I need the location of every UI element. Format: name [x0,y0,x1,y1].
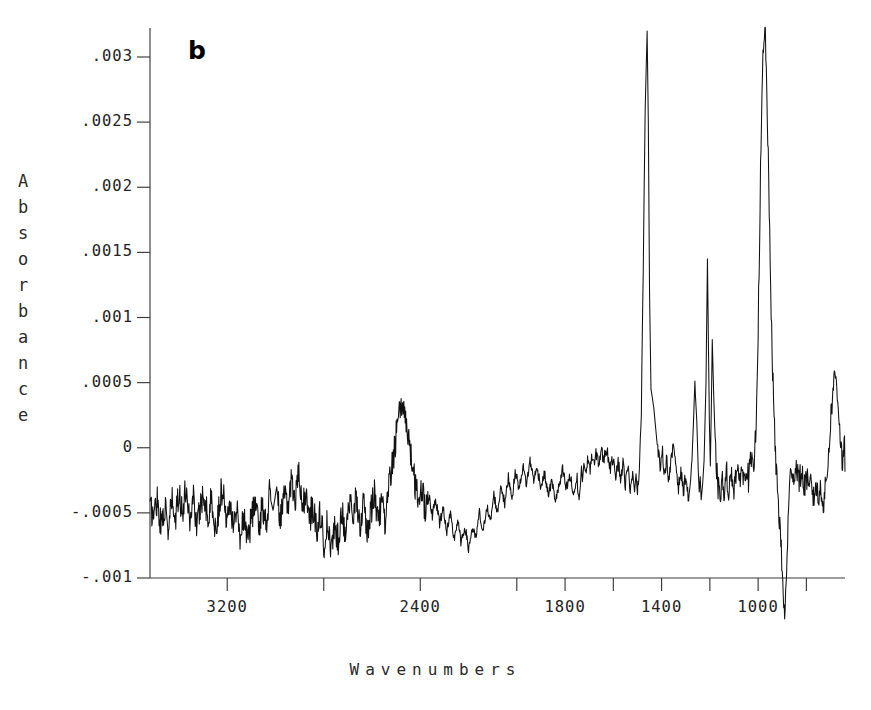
y-tick-label-8: -.001 [41,568,133,586]
x-tick-label-1400: 1400 [617,598,707,616]
y-axis-title-letter-0: A [18,168,28,194]
y-tick-label-2: .002 [41,177,133,195]
y-axis-title-letter-3: o [18,246,28,272]
y-axis-title-letter-5: b [18,298,28,324]
y-tick-label-7: -.0005 [41,503,133,521]
x-tick-label-1000: 1000 [713,598,803,616]
y-axis-title-letter-8: c [18,376,28,402]
y-tick-label-6: 0 [41,438,133,456]
y-tick-label-5: .0005 [41,373,133,391]
y-axis-title-letter-6: a [18,324,28,350]
y-axis-title-letter-4: r [18,272,28,298]
y-axis-title-letter-1: b [18,194,28,220]
y-axis-title: Absorbance [6,168,40,428]
y-tick-label-4: .001 [41,308,133,326]
x-axis-title: Wavenumbers [0,660,871,679]
y-axis-title-letter-7: n [18,350,28,376]
y-tick-label-1: .0025 [41,112,133,130]
y-tick-label-3: .0015 [41,242,133,260]
y-axis-title-letter-9: e [18,402,28,428]
y-tick-label-0: .003 [41,47,133,65]
absorbance-trace [150,27,845,619]
panel-label-b: b [188,36,206,65]
axis-lines [150,28,845,578]
x-tick-label-2400: 2400 [375,598,465,616]
x-tick-label-3200: 3200 [182,598,272,616]
y-axis-title-letter-2: s [18,220,28,246]
spectrum-figure: b Absorbance Wavenumbers .003.0025.002.0… [0,0,871,710]
x-tick-label-1800: 1800 [520,598,610,616]
